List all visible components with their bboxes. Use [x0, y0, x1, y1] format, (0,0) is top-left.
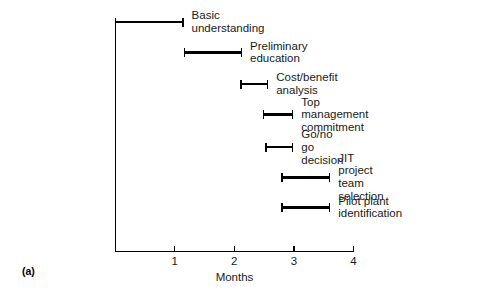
task-bar: [281, 176, 330, 179]
task-bar: [281, 206, 330, 209]
task-bar-start-cap: [184, 48, 185, 57]
task-bar: [115, 21, 184, 24]
task-bar-label: Pilot plant identification: [338, 195, 402, 221]
task-bar-start-cap: [240, 80, 241, 89]
task-bar-start-cap: [115, 18, 116, 27]
task-bar-label: Basic understanding: [192, 9, 265, 35]
x-axis-tick: [293, 246, 294, 252]
gantt-chart-figure: 1234 Basic understandingPreliminary educ…: [0, 0, 482, 294]
task-bar: [184, 51, 242, 54]
task-bar: [265, 146, 293, 149]
task-bar-end-cap: [329, 173, 330, 182]
task-bar-end-cap: [329, 203, 330, 212]
task-bar-label: Preliminary education: [250, 40, 308, 66]
task-bar-label: Cost/benefit analysis: [276, 71, 337, 97]
task-bar: [263, 113, 293, 116]
task-bar-start-cap: [281, 203, 282, 212]
task-bar-label: Go/no go decision: [301, 128, 343, 166]
y-axis-line: [115, 18, 116, 252]
x-axis-tick: [174, 246, 175, 252]
task-bar-start-cap: [263, 110, 264, 119]
x-axis-tick: [353, 246, 354, 252]
x-axis-tick-label: 1: [163, 254, 187, 268]
task-bar-end-cap: [292, 110, 293, 119]
task-bar-end-cap: [182, 18, 183, 27]
x-axis-tick-label: 2: [222, 254, 246, 268]
x-axis-tick: [234, 246, 235, 252]
x-axis-title: Months: [115, 270, 354, 284]
task-bar-end-cap: [292, 143, 293, 152]
task-bar-end-cap: [267, 80, 268, 89]
task-bar: [240, 83, 268, 86]
x-axis-tick-label: 3: [282, 254, 306, 268]
task-bar-start-cap: [265, 143, 266, 152]
task-bar-end-cap: [241, 48, 242, 57]
x-axis-tick-label: 4: [342, 254, 366, 268]
task-bar-start-cap: [281, 173, 282, 182]
figure-caption: (a): [22, 265, 35, 278]
